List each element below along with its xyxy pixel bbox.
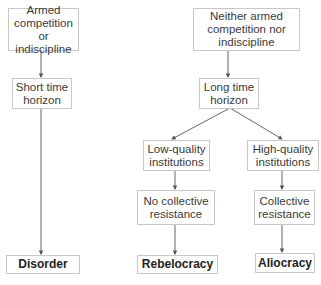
- node-long-time-horizon: Long time horizon: [199, 78, 259, 109]
- node-aliocracy: Aliocracy: [255, 253, 315, 273]
- node-label: Aliocracy: [258, 257, 312, 270]
- node-rebelocracy: Rebelocracy: [137, 255, 218, 274]
- node-neither: Neither armed competition nor indiscipli…: [193, 8, 300, 51]
- node-no-collective-resistance: No collective resistance: [137, 190, 215, 225]
- node-label: Rebelocracy: [142, 258, 213, 271]
- node-disorder: Disorder: [6, 255, 80, 274]
- node-collective-resistance: Collective resistance: [254, 190, 315, 225]
- node-label: High-quality institutions: [248, 143, 318, 169]
- node-label: Neither armed competition nor indiscipli…: [194, 10, 299, 49]
- node-armed-competition: Armed competition or indiscipline: [8, 8, 79, 51]
- node-label: Long time horizon: [200, 81, 258, 107]
- node-label: Armed competition or indiscipline: [9, 4, 78, 56]
- node-label: Short time horizon: [13, 81, 71, 107]
- node-short-time-horizon: Short time horizon: [12, 78, 72, 109]
- node-label: Disorder: [18, 258, 67, 271]
- node-high-quality-institutions: High-quality institutions: [247, 140, 319, 171]
- arrow-long-to-lowq: [172, 108, 230, 139]
- node-label: Low-quality institutions: [144, 143, 209, 169]
- arrow-long-to-highq: [230, 108, 282, 139]
- node-label: No collective resistance: [138, 195, 214, 221]
- node-low-quality-institutions: Low-quality institutions: [143, 140, 210, 171]
- node-label: Collective resistance: [255, 195, 314, 221]
